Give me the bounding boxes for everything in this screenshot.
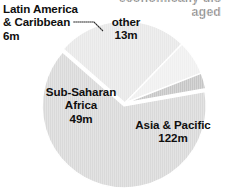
slice-label-sub-saharan-africa: Sub-Saharan Africa 49m (32, 85, 130, 125)
slice-label-latin-america-caribbean: Latin America & Caribbean 6m (3, 2, 113, 42)
chart-canvas: economically dis aged Latin America & Ca… (0, 0, 225, 196)
slice-label-asia-pacific: Asia & Pacific 122m (132, 118, 214, 145)
slice-label-other: other 13m (99, 15, 153, 42)
